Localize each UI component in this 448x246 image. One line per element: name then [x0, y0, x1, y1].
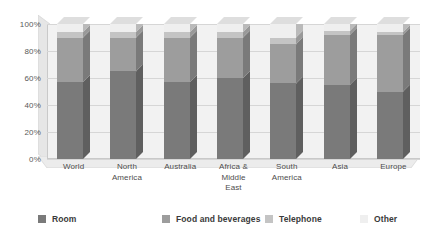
bar-segment[interactable]	[217, 78, 243, 159]
bar-segment[interactable]	[57, 82, 83, 159]
bar-top-face	[270, 17, 296, 23]
bar-front-face	[217, 24, 243, 159]
bar-side-face	[296, 24, 303, 159]
x-axis-label-south-america: SouthAmerica	[260, 162, 313, 183]
bar-segment[interactable]	[270, 83, 296, 159]
bar-segment[interactable]	[377, 24, 403, 32]
bar-side-face	[350, 24, 357, 159]
bar-front-face	[377, 24, 403, 159]
bar-front-face	[110, 24, 136, 159]
x-axis-label-asia: Asia	[313, 162, 366, 173]
bar-top-face	[377, 17, 403, 23]
bar-group[interactable]	[110, 24, 136, 159]
y-axis-tick-0: 0%	[29, 155, 41, 164]
legend-label: Other	[374, 214, 397, 224]
legend-item-food-and-beverages[interactable]: Food and beverages	[162, 212, 260, 226]
bar-segment[interactable]	[324, 35, 350, 85]
bar-segment[interactable]	[324, 85, 350, 159]
bar-group[interactable]	[164, 24, 190, 159]
legend-label: Food and beverages	[176, 214, 260, 224]
bar-segment[interactable]	[217, 24, 243, 32]
bar-segment[interactable]	[270, 44, 296, 83]
bar-front-face	[270, 24, 296, 159]
y-axis-tick-20: 20%	[24, 128, 41, 137]
legend-swatch-icon	[265, 215, 273, 223]
bar-group[interactable]	[217, 24, 243, 159]
legend-label: Telephone	[279, 214, 322, 224]
bar-front-face	[57, 24, 83, 159]
x-axis-label-africa-middle-east: Africa &MiddleEast	[207, 162, 260, 194]
bar-top-face	[217, 17, 243, 23]
x-axis-label-world: World	[47, 162, 100, 173]
legend-item-telephone[interactable]: Telephone	[265, 212, 322, 226]
bar-segment[interactable]	[164, 82, 190, 159]
legend-label: Room	[52, 214, 76, 224]
bar-group[interactable]	[324, 24, 350, 159]
bar-segment[interactable]	[110, 71, 136, 159]
legend-item-other[interactable]: Other	[360, 212, 397, 226]
bar-group[interactable]	[57, 24, 83, 159]
chart-legend: RoomFood and beveragesTelephoneOther	[0, 212, 448, 232]
bar-segment[interactable]	[57, 38, 83, 83]
bar-segment[interactable]	[164, 38, 190, 83]
legend-swatch-icon	[360, 215, 368, 223]
bar-segment[interactable]	[57, 24, 83, 32]
legend-swatch-icon	[38, 215, 46, 223]
bar-side-face	[136, 24, 143, 159]
bar-segment[interactable]	[377, 35, 403, 92]
bar-group[interactable]	[270, 24, 296, 159]
plot-area: 0%20%40%60%80%100%	[47, 24, 420, 159]
x-axis-label-north-america: NorthAmerica	[100, 162, 153, 183]
gridline-0	[47, 159, 420, 160]
bar-side-face	[403, 24, 410, 159]
bar-side-face	[243, 24, 250, 159]
bar-top-face	[324, 17, 350, 23]
bar-side-face	[190, 24, 197, 159]
bar-series-container	[47, 24, 420, 159]
bar-group[interactable]	[377, 24, 403, 159]
bar-segment[interactable]	[110, 24, 136, 32]
legend-swatch-icon	[162, 215, 170, 223]
x-axis-label-europe: Europe	[367, 162, 420, 173]
legend-item-room[interactable]: Room	[38, 212, 76, 226]
bar-top-face	[164, 17, 190, 23]
x-axis-label-australia: Australia	[154, 162, 207, 173]
bar-segment[interactable]	[377, 92, 403, 160]
stacked-bar-chart: 0%20%40%60%80%100% WorldNorthAmericaAust…	[0, 0, 448, 246]
bar-top-face	[110, 17, 136, 23]
bar-segment[interactable]	[270, 24, 296, 38]
bar-segment[interactable]	[164, 24, 190, 32]
bar-front-face	[324, 24, 350, 159]
bar-segment[interactable]	[324, 24, 350, 31]
x-axis-category-labels: WorldNorthAmericaAustraliaAfrica &Middle…	[47, 162, 420, 202]
bar-segment[interactable]	[110, 38, 136, 72]
y-axis-tick-40: 40%	[24, 101, 41, 110]
bar-side-face	[83, 24, 90, 159]
bar-segment[interactable]	[217, 38, 243, 79]
y-axis-tick-60: 60%	[24, 74, 41, 83]
y-axis-tick-100: 100%	[20, 20, 41, 29]
bar-front-face	[164, 24, 190, 159]
bar-segment[interactable]	[270, 38, 296, 45]
bar-top-face	[57, 17, 83, 23]
y-axis-tick-80: 80%	[24, 47, 41, 56]
